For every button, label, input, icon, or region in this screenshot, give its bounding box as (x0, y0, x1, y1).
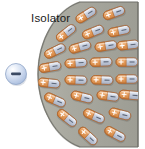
figure-canvas: Isolator (0, 0, 145, 149)
dipole-minus-glyph (79, 80, 84, 81)
dipole-plus-glyph-bar (119, 61, 124, 62)
dipole (116, 58, 139, 68)
dipole (65, 75, 88, 86)
dipole-highlight (118, 76, 136, 77)
dipole-minus-glyph (104, 61, 109, 62)
isolator-polarization-figure: Isolator (0, 0, 145, 149)
dipole (90, 57, 113, 68)
charge-minus-sign (11, 73, 21, 76)
dipole (65, 58, 88, 70)
dipole-plus-glyph-bar (68, 79, 73, 80)
dipole-plus-glyph-bar (119, 78, 124, 79)
dipole (91, 75, 114, 86)
dipole-minus-glyph (105, 80, 110, 81)
isolator-label: Isolator (31, 12, 70, 24)
dipole-plus-glyph-bar (93, 62, 98, 63)
dipole-minus-glyph (130, 61, 135, 62)
dipole-highlight (118, 59, 136, 60)
dipole-minus-glyph (130, 78, 135, 79)
dipole-plus-glyph-bar (94, 79, 99, 80)
dipole (116, 75, 139, 85)
